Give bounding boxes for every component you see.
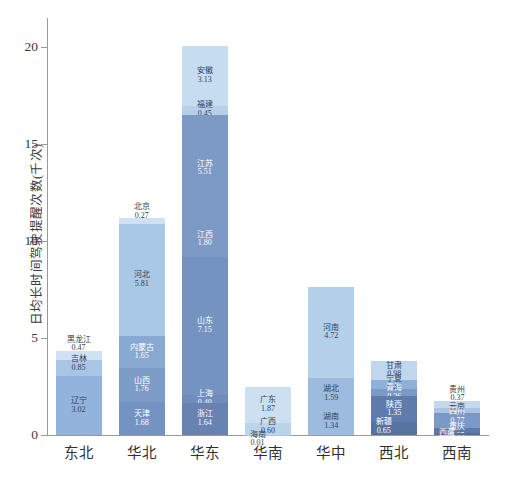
segment-value: 1.35 (386, 409, 402, 418)
stacked-bar[interactable]: 广东1.87广西0.60海南0.01 (245, 387, 291, 435)
y-tick-label: 10 (25, 233, 39, 249)
segment-annotation: 浙江1.64 (197, 410, 213, 427)
segment-annotation: 陕西1.35 (386, 401, 402, 418)
segment-label: 江西 (197, 231, 213, 240)
bar-segment[interactable]: 湖北1.59 (308, 378, 354, 409)
segment-annotation: 吉林0.85 (71, 355, 87, 372)
segment-value: 3.13 (197, 76, 213, 85)
bar-group[interactable]: 安徽3.13福建0.45江苏5.51江西1.80山东7.15上海0.40浙江1.… (173, 18, 236, 435)
stacked-bar[interactable]: 贵州0.37云南0.28四川0.77重庆0.25西藏0.09 (434, 401, 480, 435)
segment-label: 青海 (386, 384, 402, 393)
segment-annotation: 黑龙江0.47 (67, 336, 91, 353)
bar-segment[interactable]: 山东7.15 (182, 257, 228, 396)
segment-label: 河南 (323, 324, 339, 333)
segment-value: 0.27 (134, 212, 150, 221)
segment-label: 广西 (260, 418, 276, 427)
segment-annotation: 山东7.15 (197, 317, 213, 334)
segment-label: 新疆 (376, 418, 392, 427)
bar-group[interactable]: 甘肃0.98宁夏0.48青海0.36陕西1.35新疆0.65 (363, 18, 426, 435)
segment-value: 1.34 (323, 422, 339, 431)
segment-label: 宁夏 (386, 375, 402, 384)
bar-segment[interactable]: 新疆0.65 (371, 422, 417, 435)
segment-annotation: 安徽3.13 (197, 67, 213, 84)
segment-label: 山东 (197, 317, 213, 326)
segment-annotation: 江苏5.51 (197, 160, 213, 177)
segment-label: 河北 (134, 271, 150, 280)
bar-group[interactable]: 河南4.72湖北1.59湖南1.34 (300, 18, 363, 435)
stacked-bar[interactable]: 河南4.72湖北1.59湖南1.34 (308, 287, 354, 435)
bar-segment[interactable]: 浙江1.64 (182, 403, 228, 435)
bar-segment[interactable]: 山西1.76 (119, 368, 165, 402)
x-axis-categories: 东北华北华东华南华中西北西南 (47, 441, 489, 462)
stacked-bar[interactable]: 安徽3.13福建0.45江苏5.51江西1.80山东7.15上海0.40浙江1.… (182, 46, 228, 435)
bar-segment[interactable]: 吉林0.85 (56, 360, 102, 376)
segment-label: 湖北 (323, 385, 339, 394)
stacked-bar[interactable]: 甘肃0.98宁夏0.48青海0.36陕西1.35新疆0.65 (371, 361, 417, 435)
segment-label: 广东 (260, 396, 276, 405)
bar-group[interactable]: 广东1.87广西0.60海南0.01 (236, 18, 299, 435)
segment-label: 吉林 (71, 355, 87, 364)
bar-segment[interactable]: 福建0.45 (182, 106, 228, 115)
bar-segment[interactable]: 青海0.36 (371, 389, 417, 396)
segment-label: 海南 (250, 431, 266, 440)
segment-annotation: 湖南1.34 (323, 413, 339, 430)
bar-group[interactable]: 贵州0.37云南0.28四川0.77重庆0.25西藏0.09 (426, 18, 489, 435)
category-label: 华北 (110, 441, 173, 462)
segment-label: 天津 (134, 410, 150, 419)
category-label: 西北 (363, 441, 426, 462)
segment-value: 0.47 (67, 344, 91, 353)
bar-series: 黑龙江0.47吉林0.85辽宁3.02北京0.27河北5.81内蒙古1.65山西… (47, 18, 489, 435)
segment-label: 北京 (134, 203, 150, 212)
segment-label: 浙江 (197, 410, 213, 419)
bar-segment[interactable]: 湖南1.34 (308, 409, 354, 435)
bar-segment[interactable]: 上海0.40 (182, 395, 228, 403)
y-tick-label: 0 (31, 427, 38, 443)
bar-segment[interactable]: 安徽3.13 (182, 46, 228, 107)
segment-label: 上海 (197, 390, 213, 399)
bar-segment[interactable]: 天津1.68 (119, 402, 165, 435)
segment-value: 1.65 (130, 352, 154, 361)
segment-label: 甘肃 (386, 362, 402, 371)
bar-segment[interactable]: 江苏5.51 (182, 115, 228, 222)
segment-annotation: 北京0.27 (134, 203, 150, 220)
segment-value: 5.51 (197, 168, 213, 177)
segment-value: 0.37 (449, 394, 465, 403)
segment-value: 0.85 (71, 364, 87, 373)
y-tick-mark (41, 435, 47, 436)
segment-value: 1.76 (134, 385, 150, 394)
segment-value: 4.72 (323, 332, 339, 341)
segment-annotation: 新疆0.65 (376, 418, 392, 435)
y-tick-label: 15 (25, 136, 39, 152)
bar-group[interactable]: 北京0.27河北5.81内蒙古1.65山西1.76天津1.68 (110, 18, 173, 435)
segment-value: 7.15 (197, 326, 213, 335)
bar-segment[interactable]: 内蒙古1.65 (119, 336, 165, 368)
segment-label: 贵州 (449, 386, 465, 395)
segment-annotation: 河南4.72 (323, 324, 339, 341)
bar-segment[interactable]: 辽宁3.02 (56, 376, 102, 435)
category-label: 西南 (426, 441, 489, 462)
segment-value: 1.80 (197, 239, 213, 248)
stacked-bar[interactable]: 黑龙江0.47吉林0.85辽宁3.02 (56, 351, 102, 435)
bar-group[interactable]: 黑龙江0.47吉林0.85辽宁3.02 (47, 18, 110, 435)
segment-annotation: 湖北1.59 (323, 385, 339, 402)
category-label: 华东 (173, 441, 236, 462)
segment-value: 1.59 (323, 394, 339, 403)
segment-annotation: 内蒙古1.65 (130, 344, 154, 361)
plot-area: 05101520 黑龙江0.47吉林0.85辽宁3.02北京0.27河北5.81… (47, 18, 489, 436)
y-tick-label: 20 (25, 39, 39, 55)
bar-segment[interactable]: 西藏0.09 (434, 433, 480, 435)
segment-annotation: 山西1.76 (134, 377, 150, 394)
segment-annotation: 广东1.87 (260, 396, 276, 413)
segment-value: 1.68 (134, 419, 150, 428)
bar-segment[interactable]: 河北5.81 (119, 224, 165, 337)
segment-label: 安徽 (197, 67, 213, 76)
y-tick-label: 5 (31, 330, 38, 346)
segment-value: 0.65 (376, 427, 392, 436)
chart-container: 日均长时间驾驶提醒次数(千次) 05101520 黑龙江0.47吉林0.85辽宁… (0, 0, 507, 479)
stacked-bar[interactable]: 北京0.27河北5.81内蒙古1.65山西1.76天津1.68 (119, 218, 165, 435)
segment-label: 福建 (197, 101, 213, 110)
bar-segment[interactable]: 河南4.72 (308, 287, 354, 379)
segment-annotation: 辽宁3.02 (71, 397, 87, 414)
bar-segment[interactable]: 江西1.80 (182, 222, 228, 257)
segment-value: 1.87 (260, 405, 276, 414)
